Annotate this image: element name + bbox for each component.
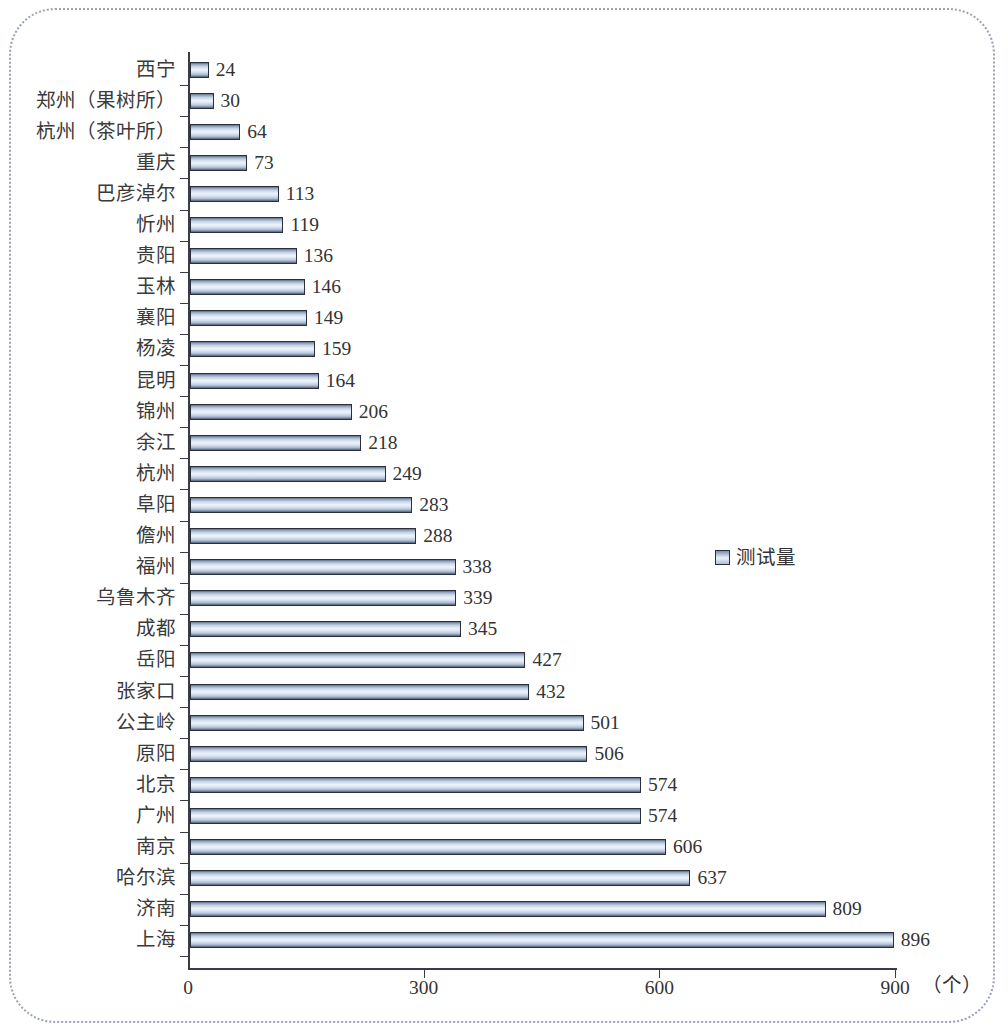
y-axis-tick — [180, 396, 188, 397]
bar-value-label: 164 — [326, 371, 355, 391]
bar-row: 公主岭501 — [188, 707, 895, 738]
bar-row: 昆明164 — [188, 365, 895, 396]
bar-value-label: 283 — [419, 495, 448, 515]
bar-row: 济南809 — [188, 894, 895, 925]
bar-value-label: 24 — [216, 60, 236, 80]
bar-value-label: 574 — [648, 775, 677, 795]
category-label: 玉林 — [136, 277, 176, 297]
y-axis-tick — [180, 210, 188, 211]
y-axis-tick — [180, 769, 188, 770]
bar-value-label: 809 — [833, 899, 862, 919]
bar — [190, 248, 297, 264]
y-axis-tick — [180, 489, 188, 490]
bar-value-label: 896 — [901, 931, 930, 951]
bar-row: 襄阳149 — [188, 303, 895, 334]
bar — [190, 777, 641, 793]
category-label: 锦州 — [136, 402, 176, 422]
bar-row: 张家口432 — [188, 676, 895, 707]
y-axis-tick — [180, 800, 188, 801]
bar-row: 郑州（果树所）30 — [188, 85, 895, 116]
category-label: 郑州（果树所） — [36, 91, 176, 111]
y-axis-tick — [180, 894, 188, 895]
bar — [190, 62, 209, 78]
y-axis-tick — [180, 178, 188, 179]
x-axis-tick-label: 900 — [880, 978, 909, 998]
bar-value-label: 206 — [359, 402, 388, 422]
y-axis-tick — [180, 707, 188, 708]
bar-row: 贵阳136 — [188, 241, 895, 272]
bar — [190, 621, 461, 637]
y-axis-tick — [180, 458, 188, 459]
y-axis-tick — [180, 614, 188, 615]
bar-row: 忻州119 — [188, 210, 895, 241]
bar-value-label: 218 — [368, 433, 397, 453]
y-axis-tick — [180, 365, 188, 366]
category-label: 重庆 — [136, 153, 176, 173]
bar-value-label: 64 — [247, 122, 267, 142]
bar-row: 广州574 — [188, 800, 895, 831]
y-axis-tick — [180, 583, 188, 584]
bar-row: 锦州206 — [188, 396, 895, 427]
y-axis-tick — [180, 925, 188, 926]
bar — [190, 186, 279, 202]
bar — [190, 373, 319, 389]
bar — [190, 93, 214, 109]
bar — [190, 684, 529, 700]
bar-value-label: 73 — [254, 153, 274, 173]
bar — [190, 559, 456, 575]
category-label: 福州 — [136, 557, 176, 577]
category-label: 南京 — [136, 837, 176, 857]
y-axis-tick — [180, 956, 188, 957]
y-axis-tick — [180, 863, 188, 864]
legend-swatch-icon — [715, 550, 730, 565]
bar — [190, 435, 361, 451]
x-axis-tick-label: 300 — [409, 978, 438, 998]
y-axis-tick — [180, 738, 188, 739]
bar — [190, 901, 826, 917]
y-axis-tick — [180, 521, 188, 522]
bar — [190, 279, 305, 295]
y-axis-tick — [180, 676, 188, 677]
category-label: 忻州 — [136, 215, 176, 235]
category-label: 儋州 — [136, 526, 176, 546]
bar — [190, 590, 456, 606]
x-axis-tick-label: 0 — [183, 978, 193, 998]
category-label: 济南 — [136, 899, 176, 919]
bar-value-label: 119 — [290, 215, 319, 235]
category-label: 杭州 — [136, 464, 176, 484]
bar — [190, 404, 352, 420]
category-label: 西宁 — [136, 60, 176, 80]
y-axis-tick — [180, 832, 188, 833]
bar-row: 杭州（茶叶所）64 — [188, 116, 895, 147]
plot-area: 西宁24郑州（果树所）30杭州（茶叶所）64重庆73巴彦淖尔113忻州119贵阳… — [188, 54, 895, 969]
bar-row: 杭州249 — [188, 458, 895, 489]
category-label: 杭州（茶叶所） — [36, 122, 176, 142]
bar-row: 玉林146 — [188, 272, 895, 303]
category-label: 余江 — [136, 433, 176, 453]
bar — [190, 217, 283, 233]
category-label: 哈尔滨 — [116, 868, 176, 888]
bar-row: 成都345 — [188, 614, 895, 645]
bar-value-label: 338 — [463, 557, 492, 577]
bar-value-label: 427 — [532, 651, 561, 671]
x-axis-tick-label: 600 — [645, 978, 674, 998]
bar-row: 北京574 — [188, 769, 895, 800]
bar-value-label: 574 — [648, 806, 677, 826]
bar-value-label: 288 — [423, 526, 452, 546]
y-axis-tick — [180, 334, 188, 335]
bar — [190, 528, 416, 544]
bar-row: 阜阳283 — [188, 489, 895, 520]
bar-row: 杨凌159 — [188, 334, 895, 365]
bar-row: 岳阳427 — [188, 645, 895, 676]
x-axis-unit-label: （个） — [922, 976, 982, 996]
y-axis-tick — [180, 272, 188, 273]
bar-row: 西宁24 — [188, 54, 895, 85]
y-axis-tick — [180, 645, 188, 646]
y-axis-tick — [180, 85, 188, 86]
category-label: 巴彦淖尔 — [96, 184, 176, 204]
bar-value-label: 149 — [314, 309, 343, 329]
bar-row: 巴彦淖尔113 — [188, 178, 895, 209]
bar — [190, 124, 240, 140]
category-label: 上海 — [136, 931, 176, 951]
bar-value-label: 606 — [673, 837, 702, 857]
